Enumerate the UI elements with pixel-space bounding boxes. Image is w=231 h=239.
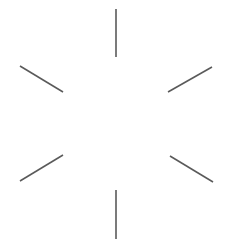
radial-spoke-diagram [0,0,231,239]
figure-canvas: Radial spoke figure [0,0,231,239]
